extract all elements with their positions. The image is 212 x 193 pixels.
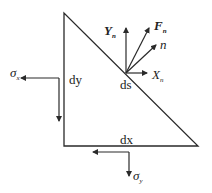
sigma-x-label: σx <box>10 66 20 82</box>
yn-label: Yn <box>104 24 116 40</box>
xn-label: Xn <box>152 68 163 84</box>
fn-arrow <box>126 28 149 73</box>
n-label: n <box>160 38 167 51</box>
fn-label: Fn <box>154 19 167 35</box>
dy-label: dy <box>69 73 82 86</box>
ds-label: ds <box>120 78 132 91</box>
sigma-y-label: σy <box>133 169 143 185</box>
dx-label: dx <box>120 133 133 146</box>
